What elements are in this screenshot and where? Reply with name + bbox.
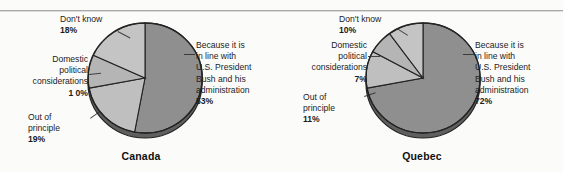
quebec-main-pct: 72% [475,96,492,106]
canada-dont-know-pct: 18% [60,25,77,35]
quebec-principle-text: Out of principle [303,92,335,113]
canada-principle-text: Out of principle [28,112,60,133]
canada-principle-pct: 19% [28,134,45,144]
canada-caption: Canada [0,150,282,162]
quebec-dont-know-text: Don't know [339,14,381,24]
quebec-caption: Quebec [281,150,563,162]
canada-label-dont-know: Don't know 18% [60,14,138,36]
canada-main-text: Because it is in line with U.S. Presiden… [196,40,251,95]
canada-label-domestic: Domestic political considerations 1 0% [2,54,88,99]
pie-chart-quebec: Don't know 10% Domestic political consid… [281,0,563,172]
canada-label-principle: Out of principle 19% [28,112,88,146]
quebec-label-dont-know: Don't know 10% [339,14,417,36]
canada-dont-know-text: Don't know [60,14,102,24]
figure-canvas: Don't know 18% Domestic political consid… [0,0,563,172]
canada-main-pct: 53% [196,96,213,106]
quebec-leader-domestic [368,56,380,57]
quebec-main-text: Because it is in line with U.S. Presiden… [475,40,530,95]
quebec-label-principle: Out of principle 11% [303,92,365,126]
quebec-domestic-pct: 7% [355,74,367,84]
canada-domestic-text: Domestic political considerations [33,54,88,86]
quebec-principle-pct: 11% [303,114,320,124]
canada-leader-main [184,54,195,55]
quebec-dont-know-pct: 10% [339,25,356,35]
quebec-label-main: Because it is in line with U.S. Presiden… [475,40,561,107]
pie-chart-canada: Don't know 18% Domestic political consid… [0,0,282,172]
canada-domestic-pct: 1 0% [68,88,88,98]
quebec-leader-main [463,54,474,55]
quebec-label-domestic: Domestic political considerations 7% [281,40,367,85]
canada-label-main: Because it is in line with U.S. Presiden… [196,40,280,107]
quebec-domestic-text: Domestic political considerations [312,40,367,72]
